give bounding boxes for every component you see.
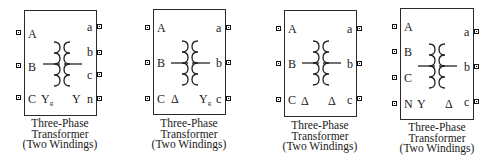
port-N[interactable] [392, 101, 397, 106]
label-c: c [216, 93, 221, 105]
block-caption: Three-Phase Transformer (Two Windings) [387, 122, 487, 154]
caption-line-3: (Two Windings) [10, 139, 110, 150]
caption-line-1: Three-Phase [270, 120, 370, 131]
port-c[interactable] [226, 96, 231, 101]
label-A: A [404, 21, 413, 33]
label-b: b [87, 46, 93, 58]
secondary-connection-label: Δ [328, 95, 336, 111]
port-A[interactable] [16, 30, 21, 35]
primary-connection-label: Yg [41, 93, 53, 109]
label-c: c [464, 96, 469, 108]
port-C[interactable] [276, 97, 281, 102]
port-c[interactable] [474, 99, 479, 104]
caption-line-1: Three-Phase [139, 118, 239, 129]
label-C: C [28, 93, 36, 105]
port-B[interactable] [145, 60, 150, 65]
port-B[interactable] [392, 49, 397, 54]
secondary-connection-label: Yg [199, 93, 211, 109]
port-B[interactable] [16, 63, 21, 68]
caption-line-3: (Two Windings) [139, 139, 239, 150]
label-b: b [464, 61, 470, 73]
port-A[interactable] [145, 25, 150, 30]
label-A: A [28, 28, 37, 40]
port-a[interactable] [357, 26, 362, 31]
label-b: b [216, 57, 222, 69]
block-caption: Three-Phase Transformer (Two Windings) [10, 118, 110, 150]
label-N: N [404, 98, 413, 110]
port-c[interactable] [97, 72, 102, 77]
primary-connection-label: Δ [301, 95, 309, 111]
port-a[interactable] [97, 24, 102, 29]
port-c[interactable] [357, 96, 362, 101]
secondary-connection-label: Y [72, 93, 81, 109]
primary-connection-label: Δ [171, 93, 179, 109]
label-B: B [288, 58, 296, 70]
transformer-coils-icon [299, 37, 343, 89]
port-C[interactable] [392, 75, 397, 80]
label-a: a [87, 21, 92, 33]
port-b[interactable] [226, 60, 231, 65]
label-B: B [157, 57, 165, 69]
port-C[interactable] [145, 96, 150, 101]
transformer-coils-icon [168, 37, 212, 89]
transformer-coils-icon [40, 38, 84, 90]
label-a: a [347, 23, 352, 35]
label-a: a [464, 26, 469, 38]
label-C: C [288, 94, 296, 106]
port-A[interactable] [276, 26, 281, 31]
label-C: C [157, 93, 165, 105]
caption-line-1: Three-Phase [387, 122, 487, 133]
primary-connection-label: Y [417, 98, 426, 114]
port-b[interactable] [97, 50, 102, 55]
label-n: n [87, 93, 93, 105]
block-caption: Three-Phase Transformer (Two Windings) [139, 118, 239, 150]
caption-line-3: (Two Windings) [270, 141, 370, 152]
port-a[interactable] [474, 29, 479, 34]
label-B: B [404, 46, 412, 58]
label-B: B [28, 61, 36, 73]
label-b: b [347, 58, 353, 70]
secondary-connection-label: Δ [445, 98, 453, 114]
port-C[interactable] [16, 95, 21, 100]
label-c: c [347, 94, 352, 106]
label-a: a [216, 22, 221, 34]
label-A: A [288, 23, 297, 35]
port-n[interactable] [97, 96, 102, 101]
block-caption: Three-Phase Transformer (Two Windings) [270, 120, 370, 152]
caption-line-1: Three-Phase [10, 118, 110, 129]
label-c: c [87, 69, 92, 81]
transformer-coils-icon [415, 40, 459, 92]
label-A: A [157, 22, 166, 34]
port-b[interactable] [474, 64, 479, 69]
port-a[interactable] [226, 25, 231, 30]
port-b[interactable] [357, 61, 362, 66]
port-B[interactable] [276, 61, 281, 66]
caption-line-3: (Two Windings) [387, 143, 487, 154]
label-C: C [404, 72, 412, 84]
port-A[interactable] [392, 24, 397, 29]
